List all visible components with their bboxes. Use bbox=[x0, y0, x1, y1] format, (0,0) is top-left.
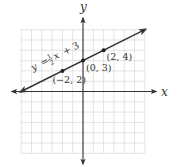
equation-rest: + 3 bbox=[61, 40, 81, 57]
labels: x y y = 1 2 x + 3 bbox=[28, 0, 168, 99]
data-point bbox=[60, 69, 64, 73]
data-point bbox=[102, 48, 106, 52]
svg-text:x + 3: x + 3 bbox=[51, 40, 80, 62]
coordinate-plane: (−2, 2)(0, 3)(2, 4) x y y = 1 2 x + 3 bbox=[0, 0, 173, 167]
x-axis-label: x bbox=[161, 85, 168, 99]
point-label: (2, 4) bbox=[107, 51, 133, 62]
y-axis-label: y bbox=[79, 0, 87, 14]
equation-label: y = 1 2 x + 3 bbox=[28, 39, 82, 75]
point-label: (0, 3) bbox=[86, 62, 112, 73]
data-point bbox=[81, 59, 85, 63]
point-label: (−2, 2) bbox=[52, 74, 86, 85]
equation-lhs: y bbox=[28, 60, 39, 73]
